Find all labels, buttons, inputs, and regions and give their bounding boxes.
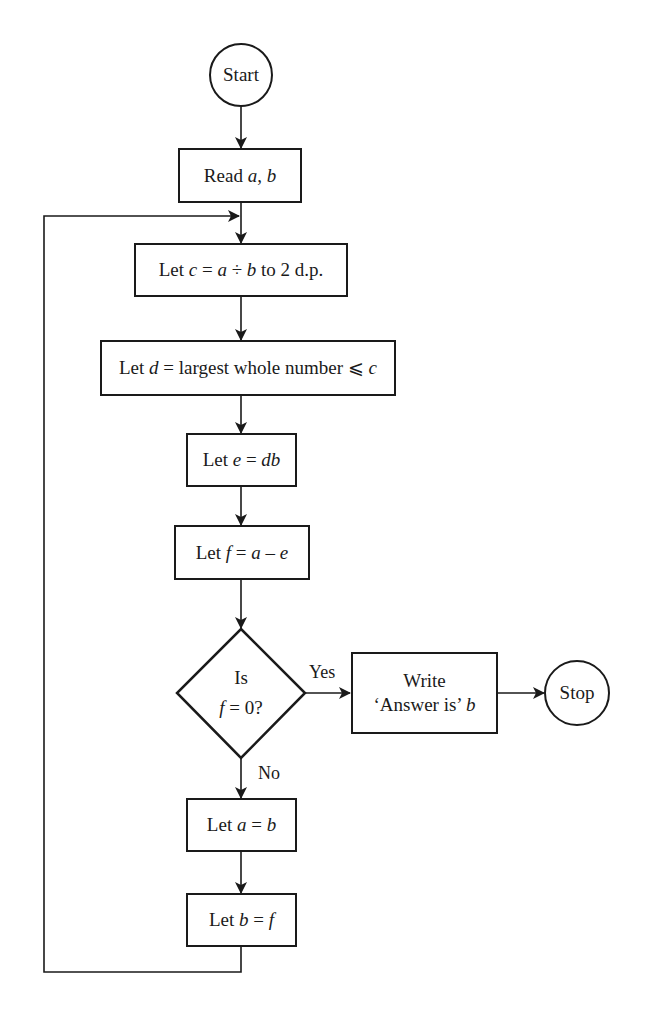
start-node: Start [209,43,273,107]
calc-e-text: Let e = db [203,448,281,472]
flowchart-connectors [0,0,645,1034]
set-a-text: Let a = b [207,813,276,837]
calc-f-text: Let f = a – e [196,541,289,565]
decision-line-1: Is [191,663,291,693]
write-line-2: ‘Answer is’ b [373,693,475,717]
calc-d-text: Let d = largest whole number ⩽ c [119,356,377,380]
yes-label: Yes [309,662,335,683]
read-node: Read a, b [178,148,302,203]
arrow-loop-back [44,216,241,972]
read-text: Read a, b [204,164,276,188]
decision-line-2: f = 0? [191,693,291,723]
calc-f-node: Let f = a – e [174,525,310,580]
calc-c-node: Let c = a ÷ b to 2 d.p. [134,243,348,297]
set-b-node: Let b = f [186,893,297,947]
stop-label: Stop [560,681,595,705]
write-node: Write ‘Answer is’ b [351,652,498,734]
set-b-text: Let b = f [209,908,274,932]
start-label: Start [223,63,259,87]
stop-node: Stop [544,660,610,726]
calc-c-text: Let c = a ÷ b to 2 d.p. [159,258,324,282]
write-line-1: Write [403,669,446,693]
set-a-node: Let a = b [186,798,297,852]
calc-d-node: Let d = largest whole number ⩽ c [100,340,396,396]
decision-text: Is f = 0? [191,663,291,723]
calc-e-node: Let e = db [186,433,297,487]
no-label: No [258,763,280,784]
